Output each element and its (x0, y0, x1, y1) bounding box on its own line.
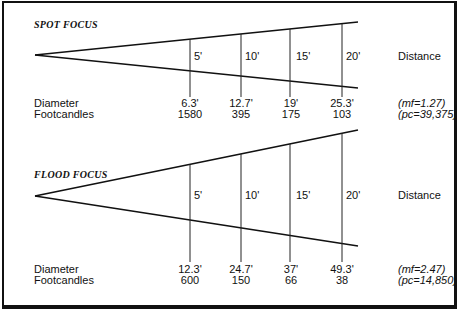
spot-footcandles-20: 103 (333, 109, 351, 120)
flood-distance-15: 15' (296, 190, 310, 201)
flood-footcandles-label: Footcandles (34, 275, 94, 286)
flood-footcandles-5: 600 (181, 275, 199, 286)
spot-distance-label: Distance (398, 51, 441, 62)
flood-footcandles-15: 66 (285, 275, 297, 286)
spot-distance-markers (190, 24, 342, 97)
spot-distance-20: 20' (346, 51, 360, 62)
flood-beam-cone (35, 130, 358, 246)
flood-footcandles-10: 150 (232, 275, 250, 286)
spot-distance-15: 15' (296, 51, 310, 62)
flood-footcandles-20: 38 (336, 275, 348, 286)
flood-distance-markers (190, 133, 342, 262)
flood-distance-20: 20' (346, 190, 360, 201)
flood-distance-5: 5' (194, 190, 202, 201)
spot-footcandles-10: 395 (232, 109, 250, 120)
spot-distance-5: 5' (194, 51, 202, 62)
flood-focus-title: FLOOD FOCUS (34, 169, 108, 180)
flood-pc: (pc=14,850) (398, 275, 457, 286)
spot-footcandles-15: 175 (282, 109, 300, 120)
spot-pc: (pc=39,375) (398, 109, 457, 120)
spot-footcandles-label: Footcandles (34, 109, 94, 120)
spot-focus-title: SPOT FOCUS (34, 19, 98, 30)
flood-distance-10: 10' (245, 190, 259, 201)
spot-distance-10: 10' (245, 51, 259, 62)
flood-distance-label: Distance (398, 190, 441, 201)
spot-footcandles-5: 1580 (178, 109, 202, 120)
